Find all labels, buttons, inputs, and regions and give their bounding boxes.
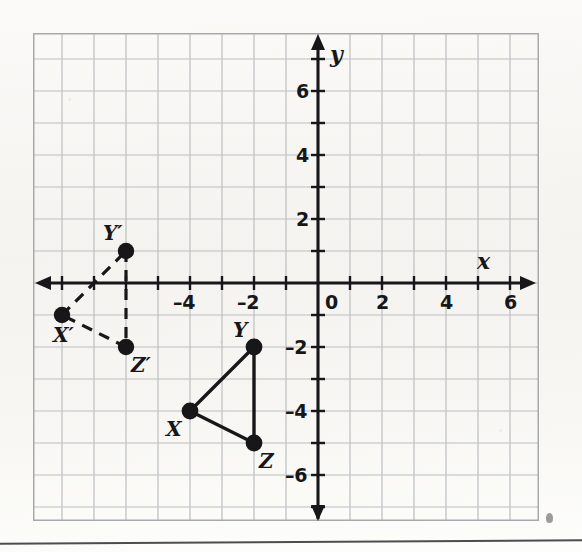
y-tick-label-2: 2 [296,208,309,230]
point-y-dot [246,339,263,356]
y-tick-label-neg4: –4 [285,400,307,422]
point-label-x: X [166,417,182,441]
y-tick-label-4: 4 [296,144,309,166]
point-x-dot [182,403,199,420]
point-label-z: Z [259,449,274,473]
point-label-x-prime: X′ [53,323,74,347]
point-xprime-dot [54,307,70,323]
x-tick-label-6: 6 [504,291,517,313]
ink-smudge [546,513,553,523]
x-tick-label-2: 2 [376,291,389,313]
y-tick-label-6: 6 [296,80,309,102]
x-tick-label-neg4: –4 [173,291,195,313]
y-tick-label-neg2: –2 [285,336,307,358]
point-label-y-prime: Y′ [103,221,123,245]
figure-page: x y –4 –2 0 2 4 6 6 4 2 –2 –4 –6 X′ Y′ Z… [0,0,582,552]
axes [41,41,528,519]
page-divider-rule [0,539,582,545]
coordinate-plane: x y –4 –2 0 2 4 6 6 4 2 –2 –4 –6 X′ Y′ Z… [33,33,539,521]
coordinate-plane-graphic [33,33,539,521]
y-axis-label: y [330,41,343,67]
origin-label: 0 [325,291,338,313]
y-axis-arrow-up [311,34,325,50]
x-axis-arrow-left [35,276,51,290]
x-axis-arrow-right [520,276,536,290]
point-label-z-prime: Z′ [131,353,151,377]
point-label-y: Y [233,318,247,342]
x-tick-label-neg2: –2 [237,291,259,313]
x-tick-label-4: 4 [440,291,453,313]
y-tick-label-neg6: –6 [285,464,307,486]
point-yprime-dot [118,243,134,259]
x-axis-label: x [477,248,490,274]
